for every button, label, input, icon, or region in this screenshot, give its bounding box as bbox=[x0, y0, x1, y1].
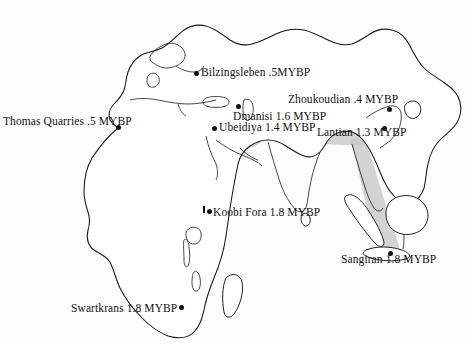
korea-japan-arc bbox=[405, 101, 421, 118]
world-map-svg bbox=[0, 0, 471, 344]
site-dot-dmanisi[interactable] bbox=[236, 104, 241, 109]
site-label-koobi-fora: Koobi Fora 1.8 MYBP bbox=[213, 207, 320, 219]
site-dot-koobi-fora[interactable] bbox=[207, 209, 212, 214]
madagascar bbox=[223, 275, 243, 318]
philippines-link bbox=[403, 234, 404, 249]
site-label-sangiran: Sangiran 1.8 MYBP bbox=[341, 254, 436, 266]
site-dot-bilzingsleben[interactable] bbox=[194, 71, 199, 76]
site-label-ubeidiya: Ubeidiya 1.4 MYBP bbox=[219, 122, 316, 134]
site-dot-lantian[interactable] bbox=[382, 126, 387, 131]
site-label-zhoukoudian: Zhoukoudian .4 MYBP bbox=[288, 94, 398, 106]
site-dot-swartkrans[interactable] bbox=[179, 305, 184, 310]
site-label-bilzingsleben: Bilzingsleben .5MYBP bbox=[201, 67, 310, 79]
site-label-lantian: Lantian 1.3 MYBP bbox=[317, 127, 406, 139]
site-label-thomas-quarries: Thomas Quarries .5 MYBP bbox=[3, 116, 132, 128]
lake-victoria bbox=[186, 227, 201, 244]
lake-tanganyika bbox=[184, 239, 190, 267]
borneo bbox=[386, 196, 428, 235]
site-label-swartkrans: Swartkrans 1.8 MYBP bbox=[71, 303, 177, 315]
lake-malawi bbox=[192, 271, 200, 291]
site-dot-thomas-quarries[interactable] bbox=[116, 125, 121, 130]
site-dot-zhoukoudian[interactable] bbox=[387, 107, 392, 112]
map-figure: Thomas Quarries .5 MYBP Bilzingsleben .5… bbox=[0, 0, 471, 344]
site-tick-koobi-fora bbox=[203, 206, 205, 213]
site-dot-ubeidiya[interactable] bbox=[212, 126, 217, 131]
